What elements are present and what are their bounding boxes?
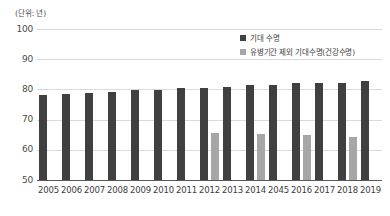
bar-expected-lifespan [85, 93, 93, 180]
x-axis-label-2009: 2009 [129, 185, 152, 196]
y-axis-label-70: 70 [0, 115, 33, 124]
bar-expected-lifespan [200, 88, 208, 180]
x-axis-label-2019: 2019 [359, 185, 382, 196]
x-axis-label-2012: 2012 [198, 185, 221, 196]
x-axis-label-2017: 2017 [313, 185, 336, 196]
bar-expected-lifespan [246, 85, 254, 180]
bar-group [60, 29, 83, 180]
bar-expected-lifespan [62, 94, 70, 180]
y-axis-label-60: 60 [0, 145, 33, 154]
bar-expected-lifespan [154, 90, 162, 180]
gridline-50 [37, 180, 382, 181]
bar-expected-lifespan [177, 88, 185, 180]
bar-group [359, 29, 382, 180]
y-axis-label-50: 50 [0, 176, 33, 185]
bar-expected-lifespan [269, 85, 277, 180]
x-axis-label-2011: 2011 [175, 185, 198, 196]
y-axis-label-80: 80 [0, 85, 33, 94]
bar-expected-lifespan [223, 87, 231, 180]
x-axis-label-2008: 2008 [106, 185, 129, 196]
bar-group [129, 29, 152, 180]
life-expectancy-bar-chart: (단위: 년) 5060708090100 200520062007200820… [0, 0, 390, 216]
bar-expected-lifespan [39, 95, 47, 180]
bar-healthy-lifespan [303, 135, 311, 180]
square-marker-icon [240, 49, 246, 55]
bar-expected-lifespan [361, 81, 369, 180]
legend-item-expected-lifespan: 기대 수명 [240, 32, 355, 44]
bar-healthy-lifespan [257, 134, 265, 181]
legend-label: 기대 수명 [250, 34, 279, 43]
x-axis-label-2010: 2010 [152, 185, 175, 196]
legend-label: 유병기간 제외 기대수명(건강수명) [250, 48, 355, 57]
x-axis-label-2014: 2014 [244, 185, 267, 196]
bar-group [83, 29, 106, 180]
bar-expected-lifespan [131, 90, 139, 180]
y-axis: 5060708090100 [0, 0, 33, 216]
bar-group [198, 29, 221, 180]
bar-group [37, 29, 60, 180]
y-axis-label-100: 100 [0, 25, 33, 34]
square-marker-icon [240, 35, 246, 41]
x-axis-label-2013: 2013 [221, 185, 244, 196]
x-axis-label-2005: 2005 [37, 185, 60, 196]
y-axis-label-90: 90 [0, 55, 33, 64]
bar-expected-lifespan [338, 83, 346, 180]
legend-item-healthy-lifespan: 유병기간 제외 기대수명(건강수명) [240, 46, 355, 58]
bar-expected-lifespan [292, 83, 300, 180]
bar-expected-lifespan [315, 83, 323, 180]
x-axis-label-2045: 2045 [267, 185, 290, 196]
bar-group [175, 29, 198, 180]
bar-healthy-lifespan [349, 137, 357, 180]
bar-group [106, 29, 129, 180]
chart-legend: 기대 수명 유병기간 제외 기대수명(건강수명) [240, 32, 355, 60]
bar-healthy-lifespan [211, 133, 219, 180]
x-axis-label-2018: 2018 [336, 185, 359, 196]
x-axis-label-2006: 2006 [60, 185, 83, 196]
x-axis-label-2007: 2007 [83, 185, 106, 196]
x-axis-label-2016: 2016 [290, 185, 313, 196]
bar-group [152, 29, 175, 180]
bar-expected-lifespan [108, 92, 116, 180]
x-axis: 2005200620072008200920102011201220132014… [37, 185, 382, 201]
